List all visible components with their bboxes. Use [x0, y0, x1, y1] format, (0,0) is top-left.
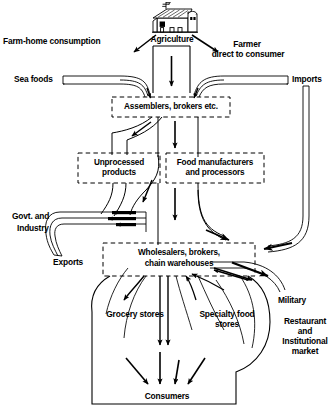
arrow-specialty-to-consumers: [188, 358, 205, 384]
label-farmer-direct-line2: direct to consumer: [205, 50, 291, 60]
imports-long-pipe: [268, 86, 309, 252]
label-assemblers: Assemblers, brokers etc.: [112, 102, 230, 112]
label-wholesalers-line2: chain warehouses: [103, 259, 255, 269]
barn-icon: [152, 2, 198, 32]
label-sea-foods: Sea foods: [14, 75, 53, 85]
assemblers-to-manufacturers-channel: [158, 117, 198, 157]
food-flow-diagram: Farm-home consumption Agriculture Farmer…: [0, 0, 336, 418]
imports-pipe-left-branch: [194, 76, 288, 97]
assemblers-to-unprocessed-channel: [112, 117, 162, 155]
sea-foods-pipe: [63, 76, 150, 97]
label-unprocessed-line2: products: [78, 168, 160, 178]
label-imports: Imports: [292, 75, 322, 85]
arrow-specialty-to-wholesalers: [186, 276, 196, 300]
arrow-manufacturers-into-wholesalers: [206, 230, 229, 240]
label-military: Military: [278, 296, 306, 306]
arrow-grocery-to-consumers: [126, 358, 148, 384]
label-specialty-line2: stores: [188, 320, 266, 330]
label-exports: Exports: [53, 258, 83, 268]
label-consumers: Consumers: [132, 392, 202, 402]
arrow-to-restaurant: [214, 268, 252, 280]
label-wholesalers-line1: Wholesalers, brokers,: [103, 248, 255, 258]
label-farm-home-consumption: Farm-home consumption: [3, 37, 100, 47]
label-restaurant-line4: market: [275, 347, 335, 357]
arrow-from-right-into-wholesalers: [214, 270, 248, 280]
label-manufacturers-line1: Food manufacturers: [166, 158, 264, 168]
funnel-inner-curves: [106, 268, 255, 348]
label-unprocessed-line1: Unprocessed: [78, 158, 160, 168]
label-agriculture: Agriculture: [140, 35, 204, 45]
label-govt-line2: Industry: [17, 224, 49, 234]
label-govt-line1: Govt. and: [12, 212, 49, 222]
label-grocery-stores: Grocery stores: [93, 310, 177, 320]
manufacturers-to-wholesalers-channel: [158, 183, 226, 245]
arrow-center-to-consumers-2: [175, 360, 179, 384]
label-manufacturers-line2: and processors: [166, 168, 264, 178]
